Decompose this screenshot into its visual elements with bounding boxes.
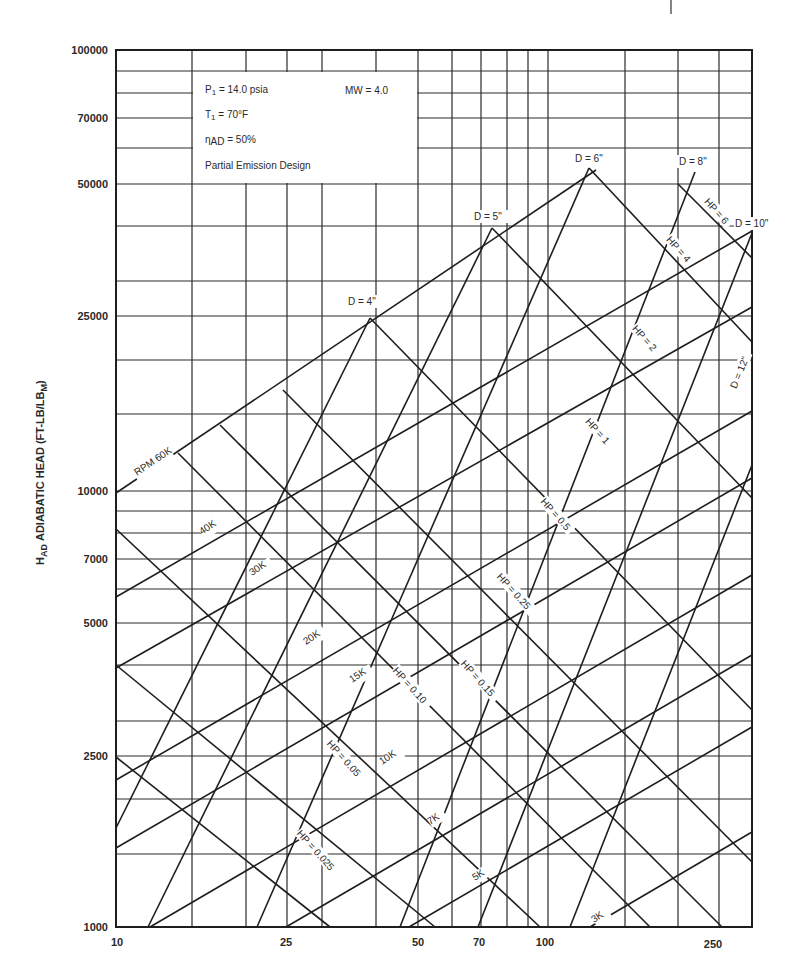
d-10-line bbox=[478, 233, 752, 927]
svg-text:100000: 100000 bbox=[71, 44, 108, 56]
y-axis-label: HADADIABATIC HEAD (FT-LB/LBM) bbox=[34, 380, 49, 565]
svg-text:10: 10 bbox=[111, 936, 123, 948]
x-axis-ticks: 10 25 50 70 100 250 bbox=[111, 936, 722, 950]
svg-text:HP = 0.025: HP = 0.025 bbox=[295, 828, 337, 873]
rpm-5k-line bbox=[409, 727, 752, 927]
d-6-line bbox=[257, 168, 589, 927]
horizontal-gridlines bbox=[116, 71, 752, 854]
svg-text:250: 250 bbox=[704, 938, 722, 950]
svg-text:HP = 4: HP = 4 bbox=[664, 234, 693, 264]
rpm-10k-line bbox=[150, 575, 752, 927]
svg-text:25: 25 bbox=[280, 936, 292, 948]
rpm-60k-line bbox=[116, 170, 596, 493]
svg-text:70000: 70000 bbox=[77, 112, 108, 124]
diameter-labels: D = 4" D = 5" D = 6" D = 8" D = 10" D = … bbox=[346, 152, 776, 394]
svg-text:D = 6": D = 6" bbox=[575, 153, 603, 164]
y-axis-ticks: 100000 70000 50000 25000 10000 7000 5000… bbox=[71, 44, 108, 933]
svg-text:HP = 0.15: HP = 0.15 bbox=[459, 658, 497, 699]
svg-text:7000: 7000 bbox=[84, 553, 108, 565]
svg-text:HADADIABATIC HEAD (FT-LB/LBM): HADADIABATIC HEAD (FT-LB/LBM) bbox=[34, 380, 49, 565]
svg-text:MW = 4.0: MW = 4.0 bbox=[345, 85, 389, 96]
svg-text:HP = 2: HP = 2 bbox=[630, 323, 659, 353]
svg-text:D = 5": D = 5" bbox=[474, 211, 502, 222]
svg-text:100: 100 bbox=[536, 936, 554, 948]
hp-0025-line bbox=[116, 757, 330, 927]
rpm-20k-line bbox=[116, 411, 752, 780]
svg-text:HP = 0.25: HP = 0.25 bbox=[495, 571, 533, 612]
svg-text:2500: 2500 bbox=[84, 750, 108, 762]
svg-text:50000: 50000 bbox=[77, 178, 108, 190]
svg-text:D = 10": D = 10" bbox=[735, 218, 769, 229]
d-12-line bbox=[570, 465, 752, 927]
svg-text:70: 70 bbox=[473, 936, 485, 948]
svg-text:D = 8": D = 8" bbox=[679, 156, 707, 167]
svg-text:1000: 1000 bbox=[84, 921, 108, 933]
hp-2-line bbox=[492, 228, 752, 498]
compressor-performance-chart: P1 = 14.0 psia MW = 4.0 T1 = 70°F ηAD = … bbox=[0, 0, 808, 973]
svg-text:Partial Emission Design: Partial Emission Design bbox=[205, 160, 311, 171]
svg-text:D = 4": D = 4" bbox=[348, 296, 376, 307]
rpm-3k-line bbox=[590, 832, 752, 927]
svg-text:10000: 10000 bbox=[77, 485, 108, 497]
svg-text:50: 50 bbox=[412, 936, 424, 948]
svg-text:5000: 5000 bbox=[84, 617, 108, 629]
svg-text:25000: 25000 bbox=[77, 310, 108, 322]
